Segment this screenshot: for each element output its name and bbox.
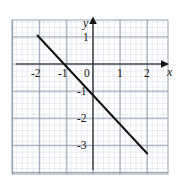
- y-tick-label-neg3: -3: [77, 140, 86, 152]
- origin-label: 0: [84, 68, 90, 80]
- graph-figure: -2 -1 0 1 2 1 -1 -2 -3 y x: [0, 0, 181, 185]
- x-tick-label-2: 2: [144, 68, 150, 80]
- y-tick-label-1: 1: [83, 32, 89, 44]
- x-tick-label-1: 1: [117, 68, 123, 80]
- y-tick-label-neg2: -2: [77, 113, 86, 125]
- x-tick-label-neg1: -1: [58, 68, 67, 80]
- x-axis-name: x: [167, 66, 172, 78]
- x-tick-label-neg2: -2: [31, 68, 40, 80]
- coordinate-plane: [0, 0, 181, 185]
- y-tick-label-neg1: -1: [77, 86, 86, 98]
- y-axis-name: y: [83, 17, 88, 29]
